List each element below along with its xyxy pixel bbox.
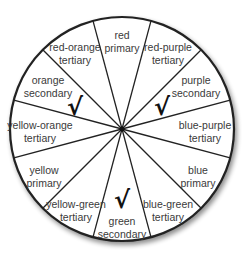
segment-purple: purplesecondary [172, 74, 220, 100]
segment-yellow: yellowprimary [26, 164, 61, 190]
segment-color-name: purple [172, 74, 220, 87]
segment-type: secondary [98, 228, 146, 241]
segment-color-name: blue-green [143, 198, 193, 211]
segment-blue-purple: blue-purpletertiary [179, 119, 232, 145]
wheel-center [120, 127, 125, 132]
segment-color-name: yellow-orange [7, 119, 72, 132]
segment-blue-green: blue-greentertiary [143, 198, 193, 224]
segment-red-purple: red-purpletertiary [144, 41, 192, 67]
segment-color-name: red-orange [49, 41, 100, 54]
checkmark-icon: √ [67, 93, 83, 121]
segment-color-name: orange [24, 74, 72, 87]
segment-color-name: red-purple [144, 41, 192, 54]
checkmark-icon: √ [154, 93, 170, 121]
segment-type: secondary [172, 87, 220, 100]
segment-orange: orangesecondary [24, 74, 72, 100]
segment-type: primary [104, 42, 139, 55]
segment-yellow-green: yellow-greentertiary [46, 198, 106, 224]
segment-type: primary [26, 177, 61, 190]
segment-color-name: red [104, 29, 139, 42]
segment-type: tertiary [49, 54, 100, 67]
segment-type: tertiary [179, 132, 232, 145]
segment-color-name: blue-purple [179, 119, 232, 132]
segment-red: redprimary [104, 29, 139, 55]
segment-type: primary [180, 177, 215, 190]
checkmark-icon: √ [114, 186, 130, 214]
segment-type: tertiary [143, 211, 193, 224]
segment-color-name: yellow-green [46, 198, 106, 211]
segment-type: secondary [24, 87, 72, 100]
segment-type: tertiary [144, 54, 192, 67]
segment-blue: blueprimary [180, 164, 215, 190]
segment-type: tertiary [46, 211, 106, 224]
segment-color-name: blue [180, 164, 215, 177]
segment-type: tertiary [7, 132, 72, 145]
segment-color-name: yellow [26, 164, 61, 177]
segment-red-orange: red-orangetertiary [49, 41, 100, 67]
segment-yellow-orange: yellow-orangetertiary [7, 119, 72, 145]
